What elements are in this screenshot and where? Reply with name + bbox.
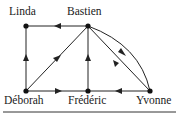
arrow-icon — [118, 48, 126, 56]
label-bastien: Bastien — [67, 6, 102, 18]
arrow-icon — [115, 88, 122, 94]
label-frederic: Frédéric — [68, 95, 106, 107]
arrow-icon — [113, 60, 119, 67]
arrowheads — [23, 23, 126, 94]
node-yvonne — [147, 88, 152, 93]
node-bastien — [85, 23, 90, 28]
edge-yvonne-bastien — [88, 26, 150, 91]
arrow-icon — [23, 54, 29, 61]
arrow-icon — [85, 54, 91, 61]
node-linda — [23, 23, 28, 28]
arrow-icon — [55, 88, 62, 94]
node-deborah — [23, 88, 28, 93]
arrow-icon — [54, 23, 61, 29]
label-deborah: Déborah — [4, 95, 44, 107]
label-linda: Linda — [9, 6, 36, 18]
label-yvonne: Yvonne — [136, 95, 171, 107]
node-frederic — [85, 88, 90, 93]
